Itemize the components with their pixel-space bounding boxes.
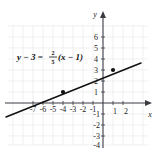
x-tick-label--4: -4 [60, 105, 67, 114]
graph-figure: -7 -6 -5 -4 -3 -2 -1 1 2 6 5 4 3 2 1 -1 … [0, 0, 159, 156]
x-tick-label--5: -5 [50, 105, 57, 114]
x-tick-label-2: 2 [124, 107, 128, 116]
x-tick-label--3: -3 [70, 105, 77, 114]
figure-background [0, 0, 159, 156]
x-tick-label-1: 1 [113, 107, 117, 116]
equation-fraction-numerator: 2 [52, 50, 55, 56]
plotted-point-2 [111, 68, 115, 72]
y-tick-label--2: -2 [93, 121, 100, 130]
y-tick-label--4: -4 [93, 141, 100, 150]
y-tick-label-5: 5 [94, 44, 98, 53]
y-tick-label-4: 4 [94, 55, 98, 64]
equation-lhs: y − 3 = [16, 52, 43, 62]
x-axis-label: x [147, 110, 152, 119]
y-tick-label-3: 3 [94, 66, 98, 75]
plotted-point-1 [61, 90, 65, 94]
y-tick-label-6: 6 [94, 33, 98, 42]
equation-rhs: (x − 1) [58, 52, 83, 62]
equation-fraction-denominator: 5 [52, 59, 55, 65]
x-tick-label--2: -2 [80, 105, 87, 114]
y-tick-label--3: -3 [93, 132, 100, 141]
x-tick-label--6: -6 [40, 105, 47, 114]
y-tick-label--1: -1 [93, 110, 100, 119]
y-axis-label: y [92, 10, 97, 19]
coordinate-plane-svg: -7 -6 -5 -4 -3 -2 -1 1 2 6 5 4 3 2 1 -1 … [0, 0, 159, 156]
y-tick-label-1: 1 [94, 88, 98, 97]
